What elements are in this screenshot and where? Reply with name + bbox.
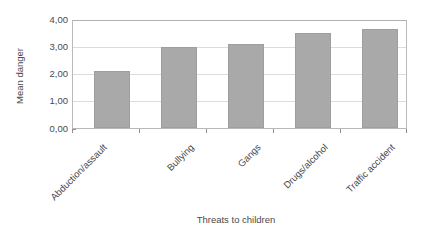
x-tick-mark	[72, 129, 73, 133]
y-tick-label: 0,00	[34, 124, 68, 134]
bar-abduction-assault	[94, 71, 130, 128]
bar-drugs-alcohol	[295, 33, 331, 128]
x-axis-title: Threats to children	[0, 214, 428, 225]
y-tick-label: 2,00	[34, 69, 68, 79]
x-axis-title-label: Threats to children	[153, 214, 276, 225]
plot-area	[72, 20, 407, 129]
bar-traffic-accident	[362, 29, 398, 128]
y-tick-label: 3,00	[34, 42, 68, 52]
bar-gangs	[228, 44, 264, 128]
bar-chart: Mean danger 4,00 3,00 2,00 1,00 0,00 Abd…	[0, 0, 428, 239]
x-tick-mark	[340, 129, 341, 133]
y-axis-title: Mean danger	[12, 22, 26, 130]
bar-bullying	[161, 47, 197, 128]
y-tick-label: 4,00	[34, 15, 68, 25]
y-axis-title-label: Mean danger	[14, 48, 25, 104]
x-tick-mark	[406, 129, 407, 133]
x-tick-mark	[206, 129, 207, 133]
x-tick-mark	[139, 129, 140, 133]
x-tick-mark	[273, 129, 274, 133]
y-tick-label: 1,00	[34, 96, 68, 106]
bars-layer	[73, 21, 406, 128]
